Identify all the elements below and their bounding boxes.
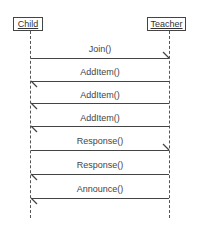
arrowheads [0, 0, 198, 230]
arrowhead-icon [31, 81, 37, 87]
arrowhead-icon [163, 144, 169, 150]
arrowhead-icon [31, 174, 37, 180]
arrowhead-icon [31, 198, 37, 204]
arrowhead-icon [31, 126, 37, 132]
arrowhead-icon [163, 52, 169, 58]
arrowhead-icon [31, 103, 37, 109]
